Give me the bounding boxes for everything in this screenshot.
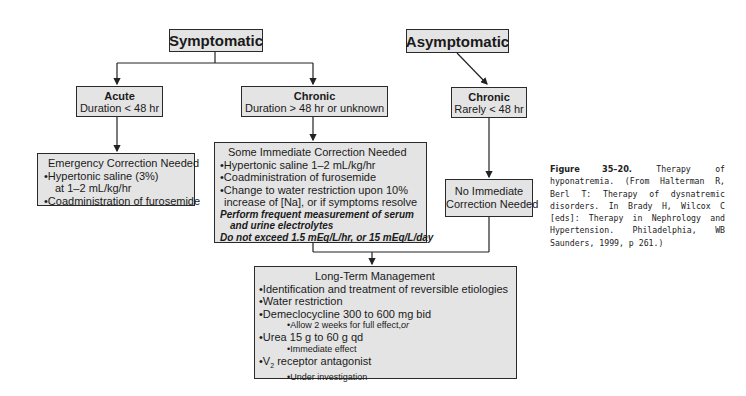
v2-antagonist-note: Under investigation <box>259 372 516 383</box>
chronic-asymptomatic-box: Chronic Rarely < 48 hr <box>451 87 527 118</box>
some-immediate-item-2: Coadministration of furosemide <box>220 171 426 184</box>
chronic-symptomatic-duration: Duration > 48 hr or unknown <box>242 102 387 114</box>
chronic-symptomatic-title: Chronic <box>242 90 387 102</box>
long-term-item-v2-antagonist: V2 receptor antagonist <box>259 355 516 373</box>
long-term-item-demeclocycline: Demeclocycline 300 to 600 mg bid <box>259 308 516 321</box>
urea-note: Immediate effect <box>259 344 516 355</box>
acute-box: Acute Duration < 48 hr <box>76 86 163 117</box>
asymptomatic-label: Asymptomatic <box>406 33 509 50</box>
or-text: or <box>401 320 409 330</box>
symptomatic-box: Symptomatic <box>169 29 263 52</box>
acute-title: Acute <box>77 90 162 102</box>
some-immediate-item-3: Change to water restriction upon 10% <box>220 184 426 197</box>
monitoring-note-1: Perform frequent measurement of serum <box>220 209 426 221</box>
some-immediate-correction-box: Some Immediate Correction Needed Hyperto… <box>214 142 427 243</box>
asymptomatic-box: Asymptomatic <box>406 29 509 53</box>
acute-duration: Duration < 48 hr <box>77 102 162 114</box>
emergency-item-1: Hypertonic saline (3%) <box>44 170 194 183</box>
some-immediate-item-3-cont: increase of [Na], or if symptoms resolve <box>220 196 426 209</box>
long-term-item-urea: Urea 15 g to 60 g qd <box>259 331 516 344</box>
caption-text: Therapy of hyponatremia. (From Halterman… <box>550 164 725 248</box>
demeclocycline-note-text: Allow 2 weeks for full effect, <box>290 320 401 330</box>
emergency-title: Emergency Correction Needed <box>44 157 194 170</box>
emergency-item-2: Coadministration of furosemide <box>44 195 194 208</box>
some-immediate-title: Some Immediate Correction Needed <box>220 146 426 159</box>
no-immediate-correction-box: No Immediate Correction Needed <box>445 179 533 217</box>
demeclocycline-note: Allow 2 weeks for full effect,or <box>259 320 516 331</box>
long-term-item-etiologies: Identification and treatment of reversib… <box>259 283 516 296</box>
emergency-item-1-cont: at 1–2 mL/kg/hr <box>44 182 194 195</box>
receptor-antagonist-text: receptor antagonist <box>274 355 371 367</box>
chronic-asymptomatic-duration: Rarely < 48 hr <box>452 103 526 115</box>
chronic-symptomatic-box: Chronic Duration > 48 hr or unknown <box>241 86 388 117</box>
monitoring-note-1-cont: and urine electrolytes <box>220 220 426 232</box>
some-immediate-item-1: Hypertonic saline 1–2 mL/kg/hr <box>220 159 426 172</box>
figure-caption: Figure 35–20. Therapy of hyponatremia. (… <box>550 163 725 249</box>
long-term-item-water-restriction: Water restriction <box>259 295 516 308</box>
symptomatic-label: Symptomatic <box>169 32 263 49</box>
no-immediate-line-1: No Immediate <box>446 185 532 198</box>
rate-limit-note: Do not exceed 1.5 mEq/L/hr, or 15 mEq/L/… <box>220 232 426 244</box>
long-term-title: Long-Term Management <box>259 270 516 283</box>
chronic-asymptomatic-title: Chronic <box>452 91 526 103</box>
no-immediate-line-2: Correction Needed <box>446 198 532 211</box>
emergency-correction-box: Emergency Correction Needed Hypertonic s… <box>37 153 195 206</box>
long-term-management-box: Long-Term Management Identification and … <box>254 266 517 379</box>
figure-label: Figure 35–20. <box>550 164 632 174</box>
